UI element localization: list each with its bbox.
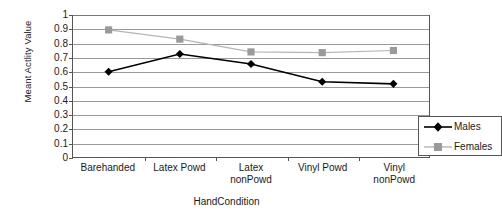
y-axis-title: Meant Actlity Value [22, 0, 33, 127]
y-tick-mark [69, 87, 73, 88]
x-tick-mark [359, 157, 360, 161]
y-tick-label: 1 [62, 10, 68, 20]
x-tick-label: Vinyl nonPowd [373, 162, 415, 185]
data-series-layer [73, 15, 429, 157]
data-point-females [176, 36, 183, 43]
y-tick-label: 0 [62, 153, 68, 163]
y-tick-mark [69, 158, 73, 159]
legend-label-males: Males [454, 121, 481, 132]
y-tick-mark [69, 44, 73, 45]
series-line-males [109, 54, 394, 84]
y-tick-mark [69, 15, 73, 16]
y-tick-mark [69, 72, 73, 73]
legend: Males Females [418, 116, 502, 156]
data-point-females [390, 47, 397, 54]
males-legend-symbol [423, 117, 453, 137]
y-tick-label: 0.5 [54, 82, 68, 92]
x-tick-mark [216, 157, 217, 161]
x-tick-label: Barehanded [81, 162, 136, 174]
x-tick-mark [288, 157, 289, 161]
y-axis-tick-labels: 10.90.80.70.60.50.40.30.20.10 [44, 0, 68, 214]
legend-entry-females: Females [419, 137, 501, 157]
x-tick-label: Latex Powd [153, 162, 205, 174]
data-point-males [247, 60, 255, 68]
data-point-males [318, 78, 326, 86]
y-tick-label: 0.1 [54, 139, 68, 149]
y-tick-label: 0.8 [54, 39, 68, 49]
y-tick-mark [69, 115, 73, 116]
data-point-males [105, 68, 113, 76]
y-tick-label: 0.3 [54, 110, 68, 120]
data-point-males [176, 50, 184, 58]
x-axis-tick-labels: BarehandedLatex PowdLatex nonPowdVinyl P… [72, 162, 430, 192]
data-point-females [319, 49, 326, 56]
y-tick-mark [69, 29, 73, 30]
legend-label-females: Females [454, 141, 492, 152]
x-tick-label: Vinyl Powd [298, 162, 347, 174]
data-point-males [389, 80, 397, 88]
y-tick-mark [69, 129, 73, 130]
legend-entry-males: Males [419, 117, 501, 137]
x-tick-label: Latex nonPowd [230, 162, 272, 185]
y-tick-label: 0.7 [54, 53, 68, 63]
females-legend-symbol [423, 137, 453, 157]
x-tick-mark [145, 157, 146, 161]
y-tick-mark [69, 101, 73, 102]
y-tick-label: 0.6 [54, 67, 68, 77]
plot-area: Males Females [72, 15, 430, 158]
x-axis-title: HandCondition [0, 196, 453, 207]
y-tick-label: 0.9 [54, 24, 68, 34]
data-point-females [105, 26, 112, 33]
y-tick-mark [69, 58, 73, 59]
y-tick-label: 0.4 [54, 96, 68, 106]
y-tick-label: 0.2 [54, 124, 68, 134]
y-tick-mark [69, 144, 73, 145]
data-point-females [247, 48, 254, 55]
